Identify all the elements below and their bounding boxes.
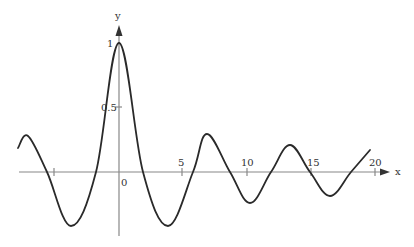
x-axis-arrow-icon	[380, 169, 390, 176]
data-series-curve	[18, 43, 370, 226]
y-tick-label-half: 0.5	[101, 102, 117, 113]
x-tick-label-5: 5	[178, 157, 184, 168]
x-axis-label: x	[395, 166, 401, 177]
y-axis-arrow-icon	[116, 25, 123, 36]
x-tick-label-20: 20	[369, 157, 382, 168]
x-tick-label-15: 15	[307, 157, 320, 168]
y-tick-label-1: 1	[107, 38, 113, 49]
x-tick-label-10: 10	[241, 157, 254, 168]
y-axis-label: y	[114, 10, 121, 21]
chart-canvas: 5 10 15 20 x y 1 0.5 0	[0, 0, 414, 247]
origin-label: 0	[121, 177, 127, 188]
